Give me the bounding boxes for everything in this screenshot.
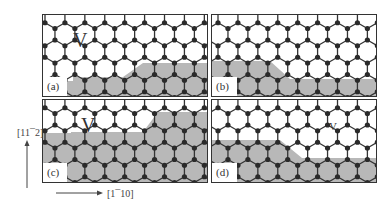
axis-label-vertical: [11¯2] [17,127,43,138]
panel-d: V (d) [211,99,377,183]
panel-label-b: (b) [212,77,237,96]
arrow-up-icon [22,140,32,190]
panel-label-c: (c) [43,163,67,182]
vacancy-label-d: V [329,120,337,132]
vacancy-label-c: V [81,114,95,137]
panel-c: V (c) [42,99,208,183]
panel-b: (b) [211,14,377,97]
lattice-a [43,15,208,97]
vacancy-label-a: V [73,29,87,52]
panel-label-d: (d) [212,163,237,182]
panel-a: V (a) [42,14,208,97]
axis-label-horizontal: [1¯10] [107,188,134,199]
arrow-right-icon [55,188,105,198]
panel-label-a: (a) [43,77,67,96]
lattice-c [43,100,208,183]
